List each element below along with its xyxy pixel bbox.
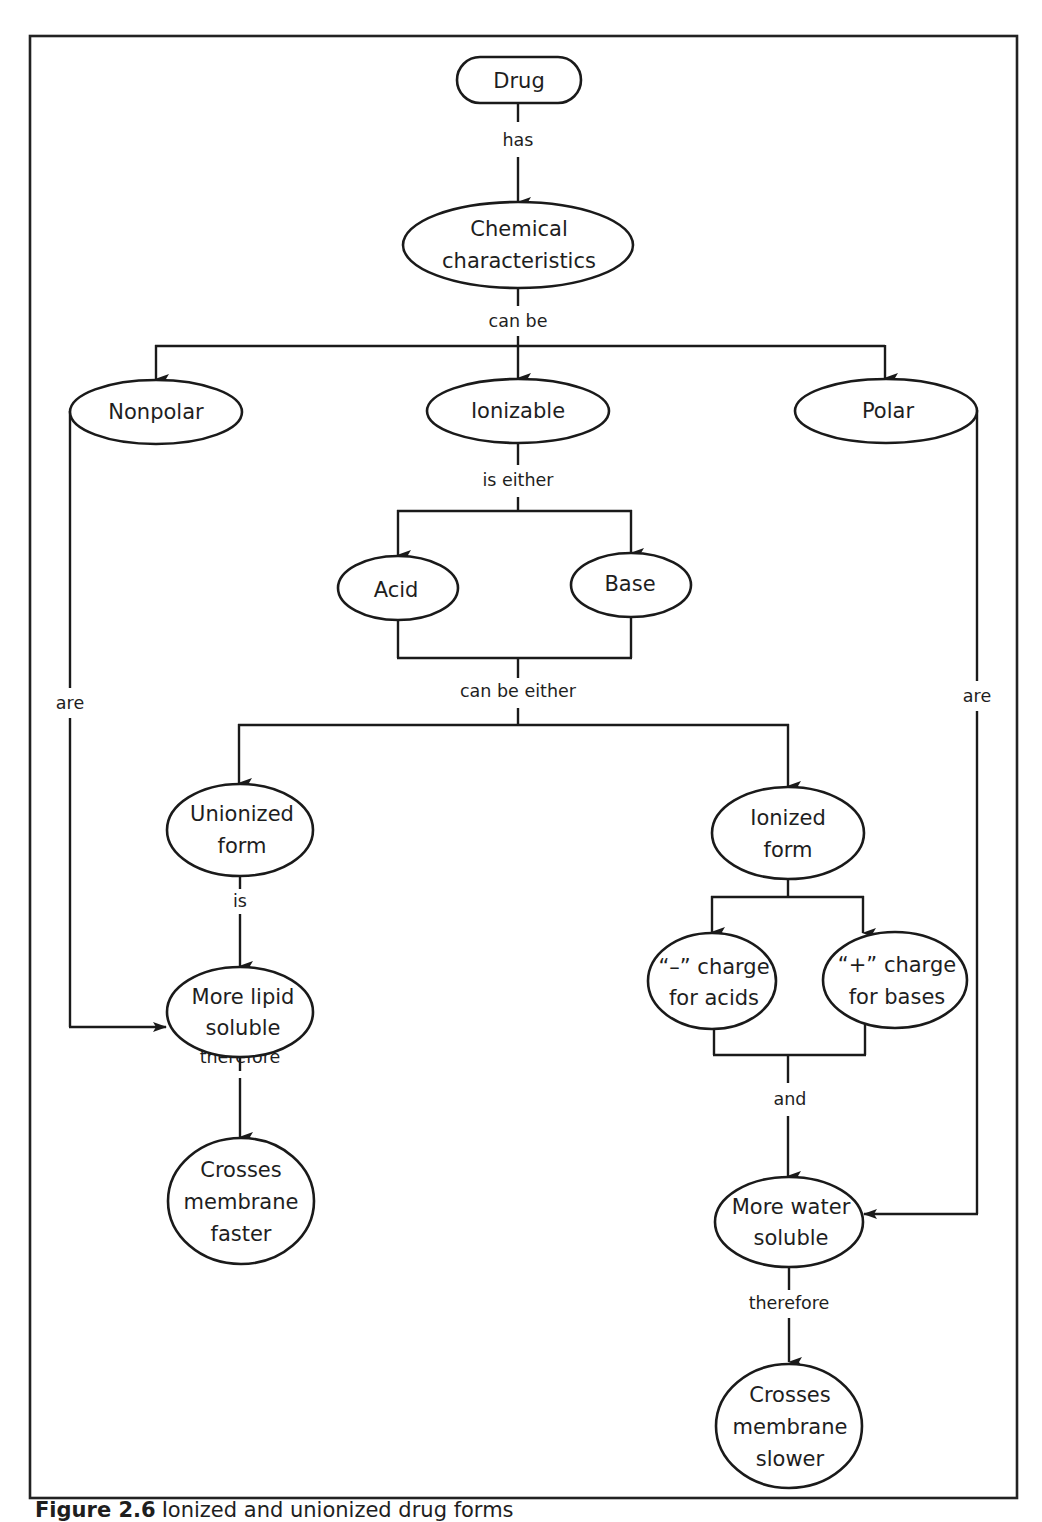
node-positive-charge-bases: “+” charge for bases: [823, 932, 967, 1028]
node-slower-line3: slower: [756, 1447, 825, 1471]
edge-and: and: [713, 1018, 866, 1176]
node-acid-label: Acid: [374, 578, 419, 602]
node-unionized-line1: Unionized: [190, 802, 294, 826]
edge-has: has: [503, 103, 534, 202]
node-drug-label: Drug: [493, 69, 544, 93]
node-slower-line2: membrane: [733, 1415, 848, 1439]
edge-is-either: is either: [397, 442, 632, 555]
node-nonpolar-label: Nonpolar: [108, 400, 204, 424]
figure-caption: Figure 2.6Ionized and unionized drug for…: [35, 1498, 514, 1522]
edge-are-right: are: [864, 410, 991, 1214]
edge-label-are-right: are: [963, 686, 991, 706]
node-ionizable-label: Ionizable: [471, 399, 565, 423]
edge-label-can-be: can be: [489, 311, 548, 331]
node-nonpolar: Nonpolar: [70, 380, 242, 444]
node-chemical-line1: Chemical: [470, 217, 567, 241]
node-faster-line2: membrane: [184, 1190, 299, 1214]
node-crosses-membrane-slower: Crosses membrane slower: [716, 1364, 862, 1488]
node-drug: Drug: [457, 57, 581, 103]
node-water-line1: More water: [732, 1195, 851, 1219]
edge-are-left: are: [56, 411, 166, 1027]
node-unionized-form: Unionized form: [167, 784, 313, 876]
edge-label-is: is: [233, 891, 247, 911]
figure-caption-text: Ionized and unionized drug forms: [162, 1498, 514, 1522]
node-neg-charge-line2: for acids: [669, 986, 759, 1010]
node-neg-charge-line1: “–” charge: [658, 955, 769, 979]
node-lipid-line2: soluble: [205, 1016, 280, 1040]
node-negative-charge-acids: “–” charge for acids: [648, 933, 776, 1029]
node-slower-line1: Crosses: [749, 1383, 830, 1407]
node-acid: Acid: [338, 556, 458, 620]
node-more-lipid-soluble: More lipid soluble: [167, 967, 313, 1057]
edge-can-be-either: can be either: [238, 617, 789, 786]
node-pos-charge-line1: “+” charge: [838, 953, 956, 977]
node-polar-label: Polar: [862, 399, 914, 423]
edge-label-therefore-right: therefore: [749, 1293, 830, 1313]
node-ionizable: Ionizable: [427, 379, 609, 443]
edge-ionized-split: [711, 879, 864, 933]
node-polar: Polar: [795, 379, 977, 443]
node-ionized-form: Ionized form: [712, 787, 864, 879]
edge-label-and: and: [774, 1089, 807, 1109]
edge-can-be: can be: [155, 288, 885, 379]
edge-label-has: has: [503, 130, 534, 150]
edge-is: is: [233, 876, 247, 966]
node-unionized-line2: form: [218, 834, 267, 858]
node-crosses-membrane-faster: Crosses membrane faster: [168, 1138, 314, 1264]
edge-therefore-right: therefore: [749, 1267, 830, 1362]
node-faster-line3: faster: [211, 1222, 272, 1246]
edge-therefore-left: therefore: [200, 1047, 281, 1137]
node-ionized-line1: Ionized: [750, 806, 825, 830]
node-more-water-soluble: More water soluble: [715, 1177, 863, 1267]
edge-label-are-left: are: [56, 693, 84, 713]
node-lipid-line1: More lipid: [192, 985, 295, 1009]
node-pos-charge-line2: for bases: [849, 985, 946, 1009]
node-chemical-line2: characteristics: [442, 249, 596, 273]
node-faster-line1: Crosses: [200, 1158, 281, 1182]
edge-label-is-either: is either: [482, 470, 554, 490]
node-base: Base: [571, 553, 691, 617]
figure-caption-label: Figure 2.6: [35, 1498, 156, 1522]
node-ionized-line2: form: [764, 838, 813, 862]
node-chemical-characteristics: Chemical characteristics: [403, 202, 633, 288]
edge-label-can-be-either: can be either: [460, 681, 577, 701]
node-base-label: Base: [604, 572, 655, 596]
node-water-line2: soluble: [753, 1226, 828, 1250]
